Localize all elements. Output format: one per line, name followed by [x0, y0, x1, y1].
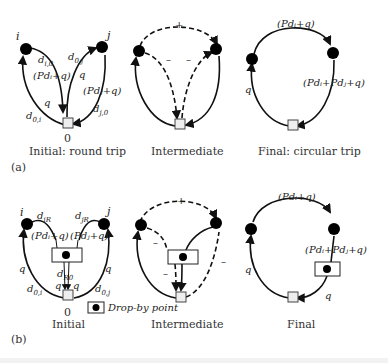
edge-j-to-0 [297, 60, 334, 126]
caption-a-final: Final: circular trip [258, 145, 361, 158]
depot-0 [63, 118, 73, 128]
node-j [327, 47, 339, 59]
label-pdi-q: (Pdᵢ+q) [33, 70, 71, 81]
label-d-jR: djR [75, 210, 90, 224]
node-j-label: j [104, 205, 111, 218]
edge-drop-to-0 [297, 276, 327, 298]
drop-by-point [179, 253, 187, 261]
caption-b-initial: Initial [52, 318, 85, 331]
label-plus: + [177, 195, 185, 206]
node-i [133, 45, 145, 57]
label-top: (Pdᵢ+q) [278, 191, 316, 202]
label-minus-1: – [153, 237, 158, 248]
node-j [210, 217, 222, 229]
label-left: q [245, 84, 251, 95]
node-i [20, 43, 32, 55]
edge-0-to-i [251, 64, 289, 126]
depot-0 [288, 292, 298, 302]
node-j [328, 223, 340, 235]
label-q-left: q [44, 97, 50, 108]
node-j [210, 43, 222, 55]
panel-b-final: (Pdᵢ+q) (Pdᵢ+Pdⱼ+q) q q Final [245, 191, 367, 331]
edge-drop-right [77, 240, 78, 248]
drop-by-point [62, 251, 70, 259]
label-d-0j: d0,j [95, 283, 111, 297]
label-top: (Pdᵢ+q) [277, 18, 315, 29]
edge-0-to-i [135, 58, 175, 126]
node-i-label: i [16, 30, 20, 43]
vehicle-routing-diagram: i j di,0 d0,j (Pdᵢ+q) q (Pdⱼ+q) q dj,0 d… [0, 0, 388, 363]
label-minus-3: – [221, 256, 226, 267]
node-j [96, 41, 108, 53]
depot-label: 0 [64, 132, 71, 145]
edge-drop-left [56, 240, 57, 248]
depot-0 [176, 292, 186, 302]
label-d-0j: d0,j [68, 51, 84, 65]
legend: Drop-by point [88, 302, 179, 313]
node-i [135, 219, 147, 231]
label-q-right: q [79, 69, 85, 80]
node-i [245, 223, 257, 235]
edge-dashed-i-to-0 [145, 53, 177, 118]
caption-a-initial: Initial: round trip [29, 145, 126, 158]
depot-0 [175, 119, 185, 129]
label-minus-2: – [163, 268, 168, 279]
label-minus-left: – [166, 54, 171, 65]
depot-0 [288, 120, 298, 130]
drop-by-point [323, 265, 331, 273]
label-pdi-q: (Pdᵢ+q) [31, 230, 69, 241]
panel-b-tag: (b) [11, 333, 27, 346]
edge-i-to-j [254, 28, 330, 54]
depot-0 [63, 290, 73, 300]
node-i [21, 218, 33, 230]
label-minus-right: – [186, 54, 191, 65]
label-d-j0: dj,0 [93, 103, 109, 117]
label-pdj-q: (Pdⱼ+q) [83, 85, 121, 96]
edge-j-to-0 [186, 56, 219, 125]
label-bottom: q [325, 290, 331, 301]
panel-a-intermediate: + – – Intermediate [133, 19, 224, 158]
label-pdj-q: (Pdⱼ+q) [70, 230, 108, 241]
label-left: q [245, 264, 251, 275]
label-q-mid-right: q [73, 280, 79, 291]
caption-b-intermediate: Intermediate [151, 318, 224, 331]
bottom-strip [0, 358, 388, 363]
panel-a-tag: (a) [11, 161, 26, 174]
node-j-label: j [104, 29, 111, 42]
panel-a-final: (Pdᵢ+q) (Pdᵢ+Pdⱼ+q) q Final: circular tr… [245, 18, 365, 158]
node-j [98, 218, 110, 230]
legend-drop-by-icon [93, 304, 100, 311]
label-right: (Pdᵢ+Pdⱼ+q) [305, 244, 367, 255]
edge-0-to-i [250, 236, 289, 298]
node-i-label: i [20, 206, 24, 219]
label-d-iR: diR [37, 210, 52, 224]
edge-j-to-drop [186, 227, 213, 250]
label-plus: + [175, 19, 183, 30]
caption-a-intermediate: Intermediate [151, 145, 224, 158]
panel-a-initial: i j di,0 d0,j (Pdᵢ+q) q (Pdⱼ+q) q dj,0 d… [16, 29, 126, 158]
caption-b-final: Final [287, 318, 316, 331]
label-q-right: q [105, 263, 111, 274]
node-i [246, 53, 258, 65]
edge-dashed-drop-to-0 [175, 264, 176, 290]
edge-drop-to-0 [181, 264, 182, 290]
label-d-0i: d0,i [26, 110, 41, 124]
label-q-mid-left: q [55, 280, 61, 291]
label-q-left: q [19, 263, 25, 274]
legend-label: Drop-by point [107, 302, 179, 313]
label-right: (Pdᵢ+Pdⱼ+q) [303, 77, 365, 88]
